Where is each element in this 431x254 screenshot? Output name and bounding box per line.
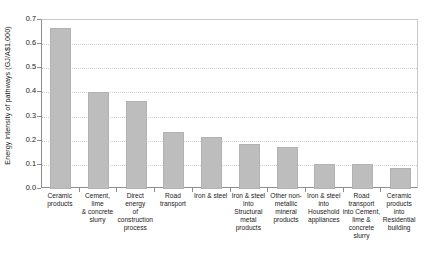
bar-chart-figure: Energy intensity of pathways (GJ/A$1,000…	[0, 0, 431, 254]
bar	[390, 168, 411, 189]
x-axis-category-label-line: Household	[305, 208, 343, 216]
y-axis-tick-label: 0.2	[0, 136, 36, 144]
x-axis-category-label-line: appliances	[305, 216, 343, 224]
x-axis-category-label: Roadtransport	[154, 192, 192, 208]
x-axis-category-label-line: Other non-	[267, 192, 305, 200]
x-axis-category-label-line: products	[267, 216, 305, 224]
bar	[201, 137, 222, 189]
x-axis-category-label-line: construction	[116, 216, 154, 224]
x-axis-category-label-line: products into	[380, 200, 418, 216]
x-axis-category-label-line: building	[380, 224, 418, 232]
bar	[88, 92, 109, 189]
x-axis-category-label-line: & concrete	[79, 208, 117, 216]
x-axis-category-label: Iron & steelintoStructuralmetalproducts	[230, 192, 268, 232]
y-axis-tick-label: 0.5	[0, 63, 36, 71]
x-axis-category-label-line: concrete	[343, 224, 381, 232]
bar	[239, 144, 260, 189]
x-axis-category-label-line: lime &	[343, 216, 381, 224]
x-axis-category-label-line: products	[230, 224, 268, 232]
x-axis-category-label: Direct energyofconstructionprocess	[116, 192, 154, 232]
x-axis-category-label-line: Cement, lime	[79, 192, 117, 208]
bar	[314, 164, 335, 189]
x-axis-category-label-line: process	[116, 224, 154, 232]
gridline	[42, 68, 417, 69]
bar	[352, 164, 373, 189]
x-axis-category-label-line: of	[116, 208, 154, 216]
bar	[126, 101, 147, 189]
x-axis-category-label-line: into	[305, 200, 343, 208]
x-axis-category-label-line: into Cement,	[343, 208, 381, 216]
y-axis-tick-label: 0.6	[0, 39, 36, 47]
x-axis-category-label: Iron & steel	[192, 192, 230, 200]
x-axis-category-label-line: Structural	[230, 208, 268, 216]
x-axis-category-label-line: slurry	[79, 216, 117, 224]
x-axis-category-label-line: slurry	[343, 232, 381, 240]
gridline	[42, 44, 417, 45]
y-axis-tick-label: 0.3	[0, 112, 36, 120]
x-axis-category-label-line: metal	[230, 216, 268, 224]
x-axis-category-label-line: Iron & steel	[305, 192, 343, 200]
x-axis-category-label-line: Road	[154, 192, 192, 200]
x-axis-category-label-line: mineral	[267, 208, 305, 216]
x-axis-category-label-line: Road	[343, 192, 381, 200]
bar	[277, 147, 298, 189]
x-axis-category-label: Ceramicproducts	[41, 192, 79, 208]
x-axis-category-label-line: Ceramic	[380, 192, 418, 200]
x-axis-category-label: Other non-metallicmineralproducts	[267, 192, 305, 224]
bar	[50, 28, 71, 189]
x-axis-category-label-line: Direct energy	[116, 192, 154, 208]
x-axis-category-label-line: transport	[343, 200, 381, 208]
x-axis-category-label-line: Ceramic	[41, 192, 79, 200]
x-axis-category-label-line: Iron & steel	[230, 192, 268, 200]
x-axis-category-label-line: Residential	[380, 216, 418, 224]
bar	[163, 132, 184, 189]
x-axis-category-label-line: into	[230, 200, 268, 208]
y-axis-tick-label: 0.4	[0, 87, 36, 95]
x-axis-category-label: Roadtransportinto Cement,lime &concretes…	[343, 192, 381, 239]
y-axis-tick-label: 0.1	[0, 160, 36, 168]
y-axis-tick-mark	[37, 188, 41, 189]
y-axis-tick-label: 0.7	[0, 15, 36, 23]
x-axis-category-label-line: transport	[154, 200, 192, 208]
plot-area	[41, 19, 418, 188]
x-axis-category-label-line: metallic	[267, 200, 305, 208]
x-axis-category-label-line: products	[41, 200, 79, 208]
x-axis-category-label: Ceramicproducts intoResidentialbuilding	[380, 192, 418, 232]
x-axis-category-label: Cement, lime& concreteslurry	[79, 192, 117, 224]
x-axis-category-label: Iron & steelintoHouseholdappliances	[305, 192, 343, 224]
x-axis-category-label-line: Iron & steel	[192, 192, 230, 200]
y-axis-tick-label: 0.0	[0, 184, 36, 192]
